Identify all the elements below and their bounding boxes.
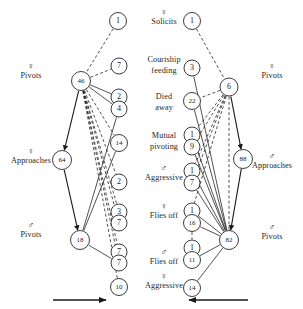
stage-label-text: Solicits (151, 17, 176, 26)
edge-L-46-to-L-64 (64, 91, 78, 150)
node-R-top-1[interactable]: 1 (184, 13, 201, 30)
node-count-label: 7 (117, 258, 121, 267)
edge-R-6-to-R-22 (201, 90, 221, 97)
male-symbol-icon: ♂ (150, 248, 178, 257)
node-count-label: 16 (189, 219, 197, 227)
node-count-label: 11 (189, 256, 196, 264)
male-symbol-icon: ♂ (20, 221, 41, 230)
female-symbol-icon: ♀ (145, 272, 183, 281)
node-L-top-1[interactable]: 1 (110, 13, 127, 30)
node-R-82[interactable]: 82 (220, 231, 239, 250)
node-count-label: 7 (117, 218, 121, 227)
node-L-46[interactable]: 46 (72, 72, 91, 91)
right-label-text: Approaches (252, 161, 292, 170)
right-label-pivots-0: ♀Pivots (261, 62, 282, 82)
node-count-label: 2 (117, 92, 121, 101)
node-L-7a[interactable]: 7 (111, 58, 127, 74)
left-label-text: Pivots (20, 71, 41, 80)
edge-L-18-to-L-7d (89, 245, 112, 259)
female-symbol-icon: ♀ (261, 62, 282, 71)
node-L-64[interactable]: 64 (53, 151, 72, 170)
node-count-label: 1 (116, 16, 120, 25)
node-R-14[interactable]: 14 (184, 280, 201, 297)
edge-L-46-to-L-2a (90, 85, 111, 94)
node-R-3[interactable]: 3 (184, 60, 200, 76)
male-symbol-icon: ♂ (261, 223, 282, 232)
left-label-pivots-0: ♀Pivots (20, 62, 41, 82)
node-count-label: 1 (190, 206, 194, 215)
node-R-88[interactable]: 88 (234, 150, 253, 169)
left-label-pivots-2: ♂Pivots (20, 221, 41, 241)
node-R-7[interactable]: 7 (184, 175, 200, 191)
stage-label-aggressive-4: ♂Aggressive (145, 164, 183, 184)
male-symbol-icon: ♂ (145, 164, 183, 173)
edge-L-top-1-to-L-46 (86, 29, 113, 73)
node-L-4[interactable]: 4 (111, 101, 127, 117)
node-count-label: 7 (117, 61, 121, 70)
right-label-approaches-1: ♂Approaches (252, 152, 292, 172)
female-symbol-icon: ♀ (11, 147, 51, 156)
node-L-2b[interactable]: 2 (111, 174, 127, 190)
node-L-14[interactable]: 14 (111, 135, 128, 152)
left-label-approaches-1: ♀Approaches (11, 147, 51, 167)
right-label-text: Pivots (261, 232, 282, 241)
node-count-label: 1 (190, 243, 194, 252)
node-R-6[interactable]: 6 (220, 78, 238, 96)
stage-label-died-2: Died away (155, 92, 173, 113)
stage-label-courtship-1: Courtship feeding (147, 55, 180, 76)
node-count-label: 1 (190, 166, 194, 175)
stage-label-mutual-3: Mutual pivoting (150, 131, 178, 152)
edge-R-14-to-R-82 (198, 248, 223, 281)
node-R-22[interactable]: 22 (184, 93, 201, 110)
node-L-7d[interactable]: 7 (111, 255, 127, 271)
node-count-label: 14 (116, 139, 124, 147)
node-L-10[interactable]: 10 (111, 279, 128, 296)
stage-label-flies-off-6: ♂Flies off (150, 248, 178, 268)
left-label-text: Approaches (11, 156, 51, 165)
stage-label-solicits-0: ♀Solicits (151, 8, 176, 28)
edge-L-46-to-L-7a (90, 69, 111, 77)
edge-L-14-to-L-18 (84, 151, 116, 230)
node-count-label: 4 (117, 104, 121, 113)
right-label-text: Pivots (261, 71, 282, 80)
node-count-label: 7 (190, 178, 194, 187)
node-count-label: 18 (77, 236, 85, 244)
stage-label-text: Courtship feeding (147, 55, 180, 75)
node-count-label: 82 (226, 236, 234, 244)
node-L-18[interactable]: 18 (71, 231, 90, 250)
node-R-9[interactable]: 9 (184, 139, 200, 155)
node-count-label: 64 (59, 156, 67, 164)
female-symbol-icon: ♀ (150, 202, 178, 211)
node-count-label: 6 (227, 82, 231, 91)
edge-R-top-1-to-R-6 (196, 29, 224, 79)
node-count-label: 14 (189, 284, 197, 292)
right-label-pivots-2: ♂Pivots (261, 223, 282, 243)
node-count-label: 22 (189, 97, 197, 105)
node-R-11[interactable]: 11 (184, 252, 201, 269)
node-count-label: 2 (117, 177, 121, 186)
male-symbol-icon: ♂ (252, 152, 292, 161)
edge-R-6-to-R-88 (231, 96, 241, 149)
node-count-label: 10 (116, 283, 124, 291)
edge-R-11-to-R-82 (200, 245, 220, 256)
node-count-label: 3 (190, 63, 194, 72)
node-count-label: 9 (190, 142, 194, 151)
node-count-label: 1 (190, 16, 194, 25)
edge-R-88-to-R-82 (231, 169, 242, 230)
node-count-label: 88 (240, 155, 248, 163)
node-L-7b[interactable]: 7 (111, 215, 127, 231)
stage-label-text: Aggressive (145, 173, 183, 182)
stage-label-text: Aggressive (145, 281, 183, 290)
left-label-text: Pivots (20, 230, 41, 239)
stage-label-text: Flies off (150, 211, 178, 220)
stage-label-text: Mutual pivoting (150, 131, 178, 151)
node-R-16[interactable]: 16 (184, 215, 201, 232)
female-symbol-icon: ♀ (20, 62, 41, 71)
stage-label-aggressive-7: ♀Aggressive (145, 272, 183, 292)
stage-label-flies-off-5: ♀Flies off (150, 202, 178, 222)
edge-R-16-to-R-82 (200, 227, 220, 236)
courtship-sequence-figure: 1467241464237187710136221917881168211114… (0, 0, 303, 309)
stage-label-text: Died away (155, 92, 173, 112)
node-count-label: 46 (78, 77, 86, 85)
stage-label-text: Flies off (150, 257, 178, 266)
